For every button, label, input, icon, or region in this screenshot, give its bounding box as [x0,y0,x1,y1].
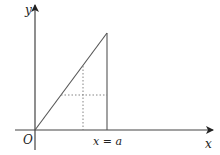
boundary-label: x = a [93,135,122,148]
diagram-canvas: y O x = a x [0,0,220,155]
diagonal-line [35,33,107,130]
x-axis-label: x [205,137,212,151]
y-axis-label: y [24,3,32,17]
origin-label: O [23,133,33,147]
